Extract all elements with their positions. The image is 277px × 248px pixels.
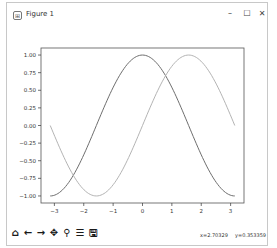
pan-icon[interactable]: ✥ — [48, 227, 60, 239]
y-tick-label: 0.00 — [24, 123, 37, 129]
x-tick-label: −3 — [50, 208, 59, 214]
figure-window: ⊞ Figure 1 – ☐ ✕ −3−2−101231.000.750.500… — [6, 2, 268, 246]
y-tick-label: 0.25 — [24, 105, 37, 111]
x-tick-label: −1 — [109, 208, 117, 214]
y-tick-label: −0.75 — [19, 175, 36, 181]
plot-canvas[interactable]: −3−2−101231.000.750.500.250.00−0.25−0.50… — [7, 3, 269, 247]
save-icon[interactable]: 🖫 — [87, 227, 99, 239]
x-tick-label: 2 — [199, 208, 203, 214]
y-tick-label: −1.00 — [19, 193, 36, 199]
home-icon[interactable]: ⌂ — [9, 227, 21, 239]
forward-icon[interactable]: → — [35, 227, 47, 239]
y-tick-label: 0.75 — [24, 70, 37, 76]
configure-subplots-icon[interactable]: ☰ — [74, 227, 86, 239]
x-tick-label: 1 — [170, 208, 174, 214]
back-icon[interactable]: ← — [22, 227, 34, 239]
y-tick-label: 1.00 — [24, 52, 37, 58]
y-tick-label: −0.25 — [19, 140, 36, 146]
sin-line — [50, 55, 235, 196]
zoom-icon[interactable]: ⚲ — [61, 227, 73, 239]
y-tick-label: −0.50 — [19, 158, 36, 164]
cursor-y-coordinate: y=0.353359 — [235, 232, 266, 238]
x-tick-label: 0 — [141, 208, 145, 214]
x-tick-label: −2 — [80, 208, 88, 214]
navigation-toolbar: ⌂ ← → ✥ ⚲ ☰ 🖫 — [9, 227, 99, 241]
cursor-x-coordinate: x=2.70329 — [200, 232, 228, 238]
y-tick-label: 0.50 — [24, 87, 37, 93]
x-tick-label: 3 — [229, 208, 233, 214]
